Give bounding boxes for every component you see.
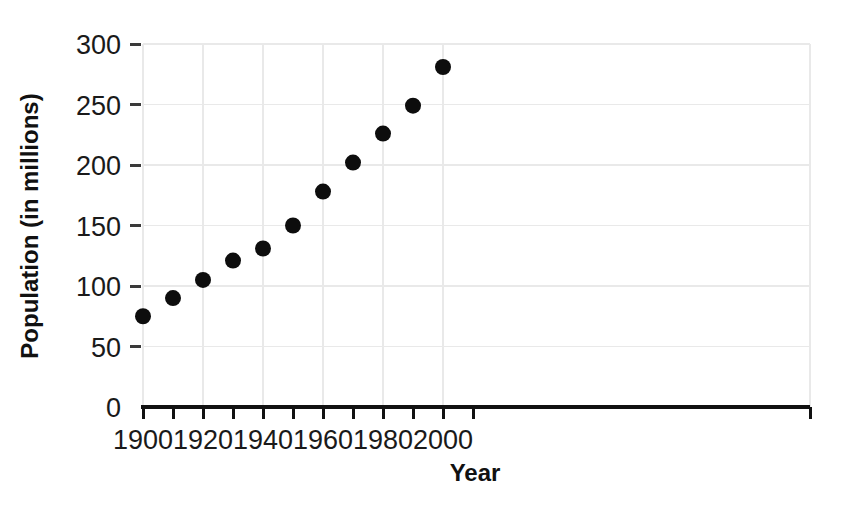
y-tick-label: 250 xyxy=(76,91,121,121)
x-tick-label: 2000 xyxy=(413,425,473,455)
x-axis-tick-labels: 190019201940196019802000 xyxy=(113,425,473,455)
y-tick-label: 300 xyxy=(76,30,121,60)
y-tick-label: 50 xyxy=(91,333,121,363)
x-axis-title: Year xyxy=(450,459,501,486)
x-tick-label: 1900 xyxy=(113,425,173,455)
data-point xyxy=(405,98,421,114)
data-point xyxy=(285,218,301,234)
x-tick-label: 1980 xyxy=(353,425,413,455)
y-axis-title: Population (in millions) xyxy=(16,93,43,358)
x-tick-label: 1940 xyxy=(233,425,293,455)
scatter-plot-figure: 050100150200250300 190019201940196019802… xyxy=(0,0,851,508)
data-point xyxy=(435,59,451,75)
data-point xyxy=(135,308,151,324)
data-point xyxy=(375,126,391,142)
data-point xyxy=(345,155,361,171)
data-point xyxy=(225,253,241,269)
x-tick-label: 1960 xyxy=(293,425,353,455)
y-tick-label: 0 xyxy=(106,393,121,423)
chart-canvas: 050100150200250300 190019201940196019802… xyxy=(0,0,851,508)
y-tick-label: 150 xyxy=(76,212,121,242)
data-point xyxy=(255,240,271,256)
data-point xyxy=(195,272,211,288)
data-point xyxy=(315,184,331,200)
x-tick-label: 1920 xyxy=(173,425,233,455)
y-tick-label: 200 xyxy=(76,151,121,181)
y-tick-label: 100 xyxy=(76,272,121,302)
data-point xyxy=(165,290,181,306)
